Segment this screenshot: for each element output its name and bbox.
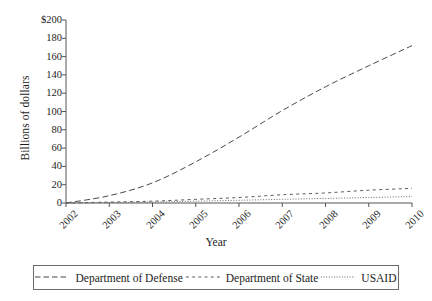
chart-figure: Billions of dollars 02040608010012014016… (0, 0, 432, 301)
dotted-key-icon (321, 277, 355, 278)
legend-item-department-of-defense: Department of Defense (35, 272, 182, 284)
plot-area (0, 0, 432, 301)
legend-label: Department of State (226, 272, 319, 284)
legend-label: Department of Defense (75, 272, 182, 284)
legend-label: USAID (361, 272, 396, 284)
dashed-long-key-icon (35, 277, 69, 278)
legend-item-department-of-state: Department of State (186, 272, 319, 284)
dashed-short-key-icon (186, 277, 220, 278)
series-line-department-of-defense (66, 46, 412, 203)
chart-legend: Department of Defense Department of Stat… (33, 265, 399, 290)
legend-item-usaid: USAID (321, 272, 396, 284)
series-line-department-of-state (66, 188, 412, 203)
